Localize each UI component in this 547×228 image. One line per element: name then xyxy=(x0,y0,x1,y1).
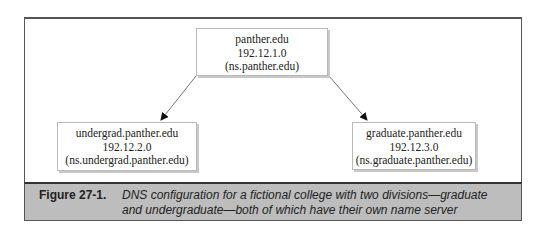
caption-line-2: and undergraduate—both of which have the… xyxy=(122,203,512,218)
node-ip: 192.12.3.0 xyxy=(353,141,475,155)
figure-caption: Figure 27-1. DNS configuration for a fic… xyxy=(24,182,522,221)
caption-label: Figure 27-1. xyxy=(39,188,106,202)
node-nameserver: (ns.undergrad.panther.edu) xyxy=(58,154,196,168)
caption-line-1: DNS configuration for a fictional colleg… xyxy=(122,188,512,203)
node-domain: graduate.panther.edu xyxy=(353,127,475,141)
node-ip: 192.12.2.0 xyxy=(58,141,196,155)
node-undergrad-panther-edu: undergrad.panther.edu 192.12.2.0 (ns.und… xyxy=(57,122,197,171)
edge-root-to-undergrad xyxy=(161,76,196,120)
node-nameserver: (ns.panther.edu) xyxy=(197,60,327,74)
node-nameserver: (ns.graduate.panther.edu) xyxy=(353,154,475,168)
edge-root-to-graduate xyxy=(329,76,367,120)
node-graduate-panther-edu: graduate.panther.edu 192.12.3.0 (ns.grad… xyxy=(352,122,476,170)
node-ip: 192.12.1.0 xyxy=(197,47,327,61)
node-panther-edu: panther.edu 192.12.1.0 (ns.panther.edu) xyxy=(196,28,328,76)
node-domain: panther.edu xyxy=(197,33,327,47)
node-domain: undergrad.panther.edu xyxy=(58,127,196,141)
caption-text: DNS configuration for a fictional colleg… xyxy=(122,188,512,218)
